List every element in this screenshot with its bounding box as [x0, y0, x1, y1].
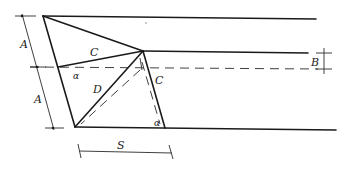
centerline	[30, 67, 318, 69]
dim-a-tick-bottom	[52, 127, 55, 130]
label-angle-bottom: α	[154, 118, 160, 128]
dashed-c-projection	[142, 62, 160, 124]
dim-s-tick-right	[169, 145, 173, 159]
middle-line	[143, 51, 308, 53]
segment-c-right	[143, 51, 165, 128]
label-a-upper: A	[19, 38, 28, 51]
label-c-left: C	[90, 46, 99, 59]
bottom-line	[75, 127, 336, 130]
top-line	[43, 16, 316, 19]
dim-a-tick-mid	[36, 66, 39, 69]
label-a-lower: A	[33, 93, 42, 106]
dim-a-line	[22, 14, 54, 130]
dashed-d-projection	[81, 70, 140, 124]
stray-mark	[145, 22, 147, 24]
left-edge	[43, 16, 75, 127]
label-s: S	[117, 139, 125, 152]
diagram-canvas: A A S B C C D α α	[0, 0, 347, 172]
label-angle-left: α	[73, 71, 79, 81]
label-b: B	[310, 56, 319, 69]
dim-s-line	[79, 151, 172, 153]
label-c-right: C	[155, 74, 164, 87]
dim-a-tick-top	[21, 15, 24, 18]
label-d: D	[92, 83, 102, 96]
